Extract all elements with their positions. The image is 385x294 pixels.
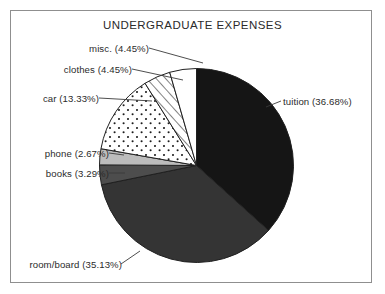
slice-label-room-board: room/board (35.13%) — [29, 259, 122, 270]
leader-line-misc- — [149, 48, 203, 63]
slice-label-tuition: tuition (36.68%) — [283, 96, 352, 107]
pie-chart-figure: UNDERGRADUATE EXPENSES tuition (36.68%) … — [0, 0, 385, 294]
pie-slices — [99, 69, 293, 263]
slice-label-phone: phone (2.67%) — [45, 148, 109, 159]
slice-label-car: car (13.33%) — [43, 93, 99, 104]
slice-label-books: books (3.29%) — [46, 168, 109, 179]
slice-label-misc: misc. (4.45%) — [89, 43, 149, 54]
leader-line-room-board — [121, 251, 140, 264]
pie-svg — [0, 0, 385, 294]
slice-label-clothes: clothes (4.45%) — [64, 64, 132, 75]
